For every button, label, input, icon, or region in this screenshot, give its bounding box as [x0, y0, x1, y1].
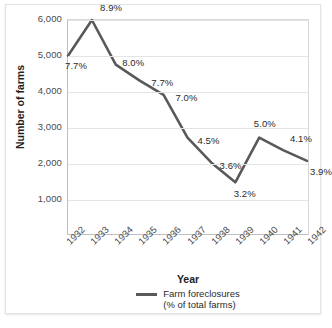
y-tick-label: 2,000 [10, 158, 62, 168]
legend-label-farm-foreclosures: Farm foreclosures (% of total farms) [163, 288, 240, 310]
data-point-label-1933: 8.9% [100, 2, 122, 13]
legend-swatch-farm-foreclosures [136, 293, 157, 296]
data-point-label-1936: 7.0% [175, 92, 197, 103]
x-axis-ticks: 1932193319341935193619371938193919401941… [67, 237, 309, 277]
data-point-label-1940: 5.0% [254, 118, 276, 129]
y-tick-label: 1,000 [10, 194, 62, 204]
data-point-label-1935: 7.7% [151, 77, 173, 88]
gridline-5000 [68, 56, 308, 57]
data-point-label-1941: 4.1% [290, 133, 312, 144]
line-chart: Number of farms 1,0002,0003,0004,0005,00… [6, 5, 322, 315]
data-point-label-1932: 7.7% [65, 60, 87, 71]
legend-label-line1: Farm foreclosures [163, 288, 240, 299]
data-point-label-1939: 3.2% [234, 188, 256, 199]
gridline-2000 [68, 164, 308, 165]
data-point-label-1934: 8.0% [122, 57, 144, 68]
gridline-1000 [68, 200, 308, 201]
data-point-label-1938: 3.6% [220, 160, 242, 171]
y-axis-ticks: 1,0002,0003,0004,0005,0006,000 [6, 19, 62, 235]
chart-legend: Farm foreclosures (% of total farms) [67, 288, 309, 310]
data-point-label-1937: 4.5% [198, 135, 220, 146]
y-tick-label: 6,000 [10, 14, 62, 24]
legend-label-line2: (% of total farms) [163, 299, 240, 310]
data-point-label-1942: 3.9% [310, 166, 332, 177]
gridline-6000 [68, 20, 308, 21]
y-tick-label: 3,000 [10, 122, 62, 132]
x-axis-title: Year [67, 273, 309, 285]
y-tick-label: 5,000 [10, 50, 62, 60]
y-tick-label: 4,000 [10, 86, 62, 96]
chart-card: Number of farms 1,0002,0003,0004,0005,00… [5, 4, 321, 314]
